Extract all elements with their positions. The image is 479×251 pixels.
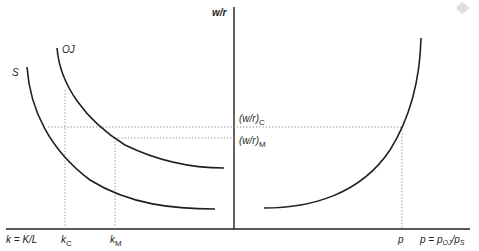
wr-c-sub: C <box>259 118 265 127</box>
wr-m-label: (w/r)M <box>239 135 266 149</box>
p-marker-label: p <box>397 234 404 245</box>
s-curve <box>27 67 215 209</box>
s-curve-label: S <box>12 67 19 78</box>
p-axis-label: p = pOJ/pS <box>419 234 465 246</box>
wr-c-label: (w/r)C <box>239 113 265 127</box>
wr-m-base: (w/r) <box>239 135 259 146</box>
oj-curve <box>57 48 224 168</box>
k-m-sub: M <box>115 239 122 248</box>
k-c-label: kC <box>61 234 72 248</box>
k-axis-label: k = K/L <box>6 234 37 245</box>
factor-price-diagram: w/r OJ S (w/r)C (w/r)M k = K/L kC kM p p… <box>0 0 479 251</box>
wr-c-base: (w/r) <box>239 113 259 124</box>
p-axis-prefix: p = p <box>419 234 443 245</box>
p-axis-mid: /p <box>450 234 460 245</box>
wr-m-sub: M <box>259 140 266 149</box>
p-axis-sub2: S <box>460 239 465 246</box>
corner-page-mark <box>456 2 470 14</box>
k-m-label: kM <box>110 234 122 248</box>
price-curve <box>264 38 421 208</box>
oj-curve-label: OJ <box>62 44 76 55</box>
k-c-sub: C <box>66 239 72 248</box>
vertical-axis-label: w/r <box>212 7 228 18</box>
